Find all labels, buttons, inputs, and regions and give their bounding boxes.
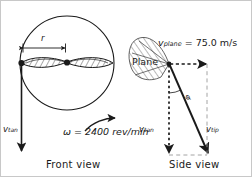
vplane-equation-label: vplane = 75.0 m/s: [158, 38, 237, 48]
propeller-diagram-svg: [1, 1, 252, 177]
vplane-subscript: plane: [164, 40, 182, 48]
vtip-arrow: [170, 65, 209, 154]
vplane-value-units: = 75.0 m/s: [185, 37, 238, 48]
propeller-hub-dot: [64, 59, 70, 65]
angle-arc: [169, 90, 181, 93]
front-vtan-label: vtan: [3, 125, 18, 134]
front-view-caption: Front view: [46, 160, 101, 170]
side-view-caption: Side view: [169, 160, 220, 170]
vtip-subscript: tip: [211, 126, 219, 133]
plane-label: Plane: [132, 57, 158, 67]
vtip-label: vtip: [206, 125, 219, 134]
radius-label: r: [41, 34, 45, 43]
side-vtan-subscript: tan: [144, 126, 154, 133]
omega-equation-label: ω = 2400 rev/min: [63, 127, 149, 137]
figure-canvas: r vtan ω = 2400 rev/min Front view Plane…: [0, 0, 252, 177]
side-vtan-label: vtan: [139, 125, 154, 134]
front-vtan-subscript: tan: [8, 126, 18, 133]
